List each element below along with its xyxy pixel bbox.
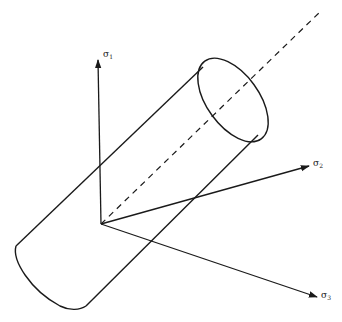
sigma3-label: σ3 [321,291,331,301]
sigma1-axis [98,60,101,224]
hydrostatic-axis-line [101,10,322,224]
cylinder-left-edge [16,67,203,246]
stress-space-diagram [0,0,342,322]
sigma2-subscript: 2 [319,162,323,169]
sigma3-axis [101,224,317,297]
sigma1-label: σ1 [103,50,113,60]
sigma2-axis [101,166,309,224]
sigma1-subscript: 1 [109,53,113,60]
sigma3-subscript: 3 [327,294,331,301]
sigma2-label: σ2 [313,159,323,169]
cylinder-bottom-cap [15,246,86,309]
